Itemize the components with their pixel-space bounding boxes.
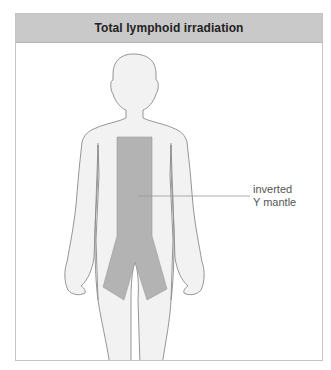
annotation-line-1: inverted	[253, 183, 296, 196]
mantle-annotation-label: inverted Y mantle	[253, 183, 296, 209]
annotation-line-2: Y mantle	[253, 196, 296, 209]
